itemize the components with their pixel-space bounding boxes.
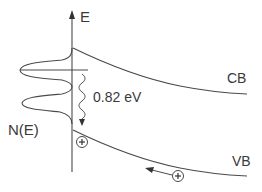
- cb-label: CB: [227, 70, 246, 86]
- hole-icon: [77, 137, 88, 148]
- hole-icon: [173, 171, 184, 182]
- band-diagram: E CB VB N(E) 0.82 eV: [0, 0, 262, 192]
- left-arrow-icon: [145, 167, 154, 173]
- conduction-band-curve: [73, 48, 247, 94]
- down-arrow-icon: [79, 119, 85, 126]
- vb-label: VB: [232, 153, 251, 169]
- axis-label-e: E: [80, 8, 90, 25]
- transition-arrow: [79, 74, 85, 126]
- dos-label: N(E): [8, 121, 39, 138]
- axis-arrow-icon: [69, 10, 75, 19]
- transition-energy-label: 0.82 eV: [93, 89, 142, 105]
- valence-band-curve: [73, 130, 247, 176]
- density-of-states-curve: [20, 48, 72, 124]
- drifting-hole: [145, 167, 184, 182]
